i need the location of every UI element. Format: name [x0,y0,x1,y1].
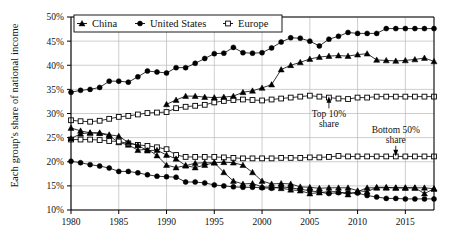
x-tick-label: 1995 [205,217,224,227]
legend-label: China [92,18,117,29]
marker-open-square [336,154,341,159]
y-axis-ticks: 50%45%40%35%30%25%20%15%10% [47,12,71,215]
marker-open-square [307,93,312,98]
annotation-line-2: share [319,119,339,129]
annotation-line-2: share [386,135,406,145]
marker-open-square [422,94,427,99]
marker-filled-circle [174,65,179,70]
marker-filled-circle [231,184,236,189]
marker-open-square [317,155,322,160]
marker-open-square [145,111,150,116]
marker-filled-circle [88,162,93,167]
marker-open-square [212,100,217,105]
marker-filled-circle [307,39,312,44]
x-axis-ticks: 19801985199019952000200520102015 [62,210,416,227]
marker-filled-triangle [269,82,275,87]
marker-open-square [374,94,379,99]
marker-open-square [212,155,217,160]
marker-filled-circle [412,196,417,201]
x-tick-label: 1990 [157,217,176,227]
x-tick-label: 2005 [300,217,319,227]
marker-filled-triangle [259,85,265,90]
marker-filled-circle [221,51,226,56]
marker-filled-circle [365,31,370,36]
marker-filled-circle [422,196,427,201]
marker-open-square [241,97,246,102]
marker-filled-triangle [164,152,170,157]
marker-open-square [384,154,389,159]
marker-open-square [202,102,207,107]
marker-open-square [250,156,255,161]
data-series [69,93,437,124]
marker-filled-circle [403,26,408,31]
y-tick-label: 40% [47,61,65,71]
marker-open-square [250,98,255,103]
x-tick-label: 1980 [62,217,81,227]
marker-open-square [355,95,360,100]
marker-filled-circle [250,185,255,190]
marker-open-square [412,94,417,99]
legend-label: Europe [238,18,269,29]
marker-filled-circle [260,185,265,190]
marker-filled-circle [107,166,112,171]
marker-filled-circle [212,51,217,56]
marker-filled-circle [355,31,360,36]
marker-filled-triangle [297,59,303,64]
marker-open-square [88,119,93,124]
marker-open-square [164,147,169,152]
marker-open-square [422,154,427,159]
marker-filled-triangle [374,57,380,62]
marker-open-square [288,155,293,160]
marker-filled-circle [326,191,331,196]
marker-open-square [365,95,370,100]
marker-filled-circle [336,190,341,195]
marker-filled-circle [174,175,179,180]
marker-filled-circle [346,190,351,195]
marker-open-square [365,154,370,159]
marker-filled-circle [221,183,226,188]
marker-open-square [327,155,332,160]
marker-filled-circle [97,85,102,90]
marker-filled-circle [164,70,169,75]
marker-open-square [403,94,408,99]
marker-filled-circle [126,169,131,174]
marker-filled-circle [393,26,398,31]
marker-open-square [78,119,83,124]
marker-filled-triangle [173,97,179,102]
marker-filled-circle [145,172,150,177]
annotation-line-1: Top 10% [312,109,347,119]
marker-open-square [107,116,112,121]
marker-filled-circle [183,65,188,70]
marker-open-square [393,94,398,99]
marker-open-square [193,155,198,160]
x-tick-label: 2010 [348,217,367,227]
marker-open-square [307,155,312,160]
marker-filled-circle [384,26,389,31]
marker-filled-circle [317,43,322,48]
marker-filled-circle [374,31,379,36]
marker-open-square [183,155,188,160]
marker-filled-circle [240,185,245,190]
marker-filled-triangle [364,51,370,56]
marker-filled-triangle [278,180,284,185]
marker-open-square [135,112,140,117]
marker-filled-circle [422,26,427,31]
marker-open-square [298,155,303,160]
marker-filled-triangle [421,55,427,60]
marker-open-square [336,96,341,101]
marker-filled-circle [116,79,121,84]
marker-open-square [317,94,322,99]
marker-filled-circle [107,79,112,84]
y-tick-label: 35% [47,85,65,95]
marker-filled-circle [336,34,341,39]
x-tick-label: 1985 [109,217,128,227]
marker-open-square [260,156,265,161]
marker-filled-circle [164,174,169,179]
marker-filled-circle [250,51,255,56]
marker-filled-circle [412,26,417,31]
marker-open-square [164,110,169,115]
marker-open-square [260,98,265,103]
chart-legend: ChinaUnited StatesEurope [74,15,282,32]
marker-open-square [288,95,293,100]
marker-open-square [126,114,131,119]
